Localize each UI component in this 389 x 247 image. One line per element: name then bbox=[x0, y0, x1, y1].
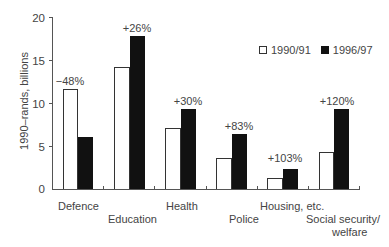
y-tick-label: 20 bbox=[25, 12, 45, 24]
y-tick bbox=[49, 103, 52, 104]
bar-health-1996 bbox=[181, 109, 196, 189]
legend-label-1996: 1996/97 bbox=[333, 44, 373, 56]
bar-police-1990 bbox=[216, 158, 232, 189]
y-tick bbox=[49, 146, 52, 147]
bar-police-1996 bbox=[232, 134, 247, 189]
category-label-defence: Defence bbox=[58, 200, 99, 213]
x-tick bbox=[103, 186, 104, 189]
pct-change-housing: +103% bbox=[263, 152, 307, 164]
category-label-social-security: Social security/ bbox=[306, 213, 380, 226]
legend-swatch-black bbox=[321, 46, 329, 54]
y-axis bbox=[52, 17, 53, 190]
y-tick bbox=[49, 17, 52, 18]
x-tick bbox=[359, 186, 360, 189]
category-label-health: Health bbox=[166, 200, 198, 213]
pct-change-defence: −48% bbox=[50, 75, 90, 87]
bar-housing-1990 bbox=[267, 178, 283, 189]
x-tick bbox=[154, 186, 155, 189]
category-label-welfare: welfare bbox=[332, 226, 367, 239]
bar-defence-1996 bbox=[78, 137, 93, 189]
bar-housing-1996 bbox=[283, 169, 298, 189]
y-tick-label: 5 bbox=[25, 141, 45, 153]
category-label-housing: Housing, etc. bbox=[260, 200, 324, 213]
legend: 1990/91 1996/97 bbox=[259, 44, 373, 56]
x-axis bbox=[52, 189, 360, 190]
y-tick-label: 10 bbox=[25, 98, 45, 110]
bar-education-1990 bbox=[114, 67, 130, 189]
bar-social-1990 bbox=[319, 152, 334, 189]
bar-social-1996 bbox=[334, 109, 349, 189]
legend-label-1990: 1990/91 bbox=[271, 44, 311, 56]
bar-health-1990 bbox=[165, 128, 181, 189]
pct-change-health: +30% bbox=[168, 95, 208, 107]
y-tick bbox=[49, 60, 52, 61]
bar-defence-1990 bbox=[63, 89, 78, 189]
legend-swatch-white bbox=[259, 46, 267, 54]
y-tick-label: 15 bbox=[25, 55, 45, 67]
category-label-police: Police bbox=[229, 213, 259, 226]
x-tick bbox=[308, 186, 309, 189]
bar-education-1996 bbox=[130, 36, 145, 189]
category-label-education: Education bbox=[108, 213, 157, 226]
y-tick-label: 0 bbox=[25, 183, 45, 195]
x-tick bbox=[257, 186, 258, 189]
x-tick bbox=[206, 186, 207, 189]
pct-change-education: +26% bbox=[117, 22, 157, 34]
pct-change-police: +83% bbox=[219, 120, 259, 132]
pct-change-social: +120% bbox=[315, 95, 359, 107]
